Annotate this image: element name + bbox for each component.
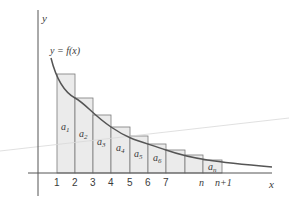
tick-6: 6 (145, 177, 151, 188)
tick-7: 7 (163, 177, 169, 188)
rect-a1 (57, 74, 75, 173)
riemann-diagram: y x y = f(x) 1 2 3 4 5 6 7 n n+1 a1 a2 a… (0, 0, 289, 209)
x-axis-label: x (268, 178, 274, 190)
tick-1: 1 (54, 177, 60, 188)
tick-2: 2 (72, 177, 78, 188)
curve-label: y = f(x) (49, 45, 81, 57)
y-axis-label: y (41, 12, 47, 24)
tick-n-plus-1: n+1 (215, 177, 232, 188)
tick-5: 5 (127, 177, 133, 188)
tick-n: n (199, 177, 204, 188)
tick-labels: 1 2 3 4 5 6 7 (54, 177, 169, 188)
tick-3: 3 (90, 177, 96, 188)
tick-4: 4 (108, 177, 114, 188)
